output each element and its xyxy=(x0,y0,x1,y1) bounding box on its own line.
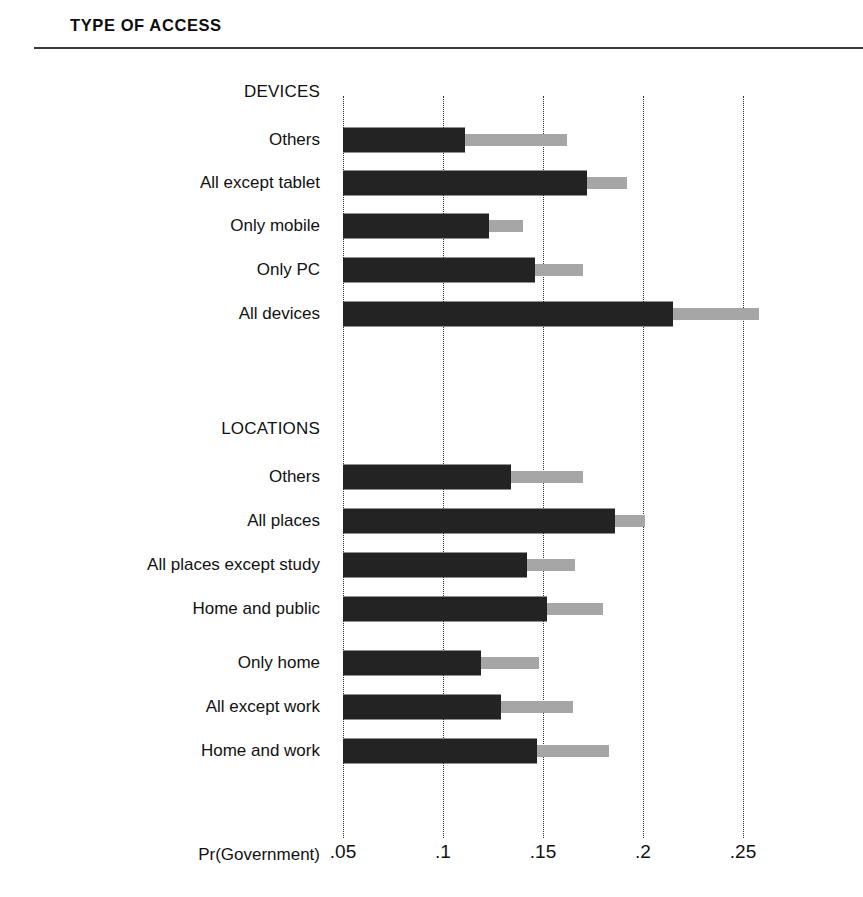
category-label-devices-all-devices: All devices xyxy=(0,304,320,324)
locations-section-label: LOCATIONS xyxy=(0,419,320,439)
category-label-devices-others: Others xyxy=(0,130,320,150)
category-label-devices-all-except-tablet: All except tablet xyxy=(0,173,320,193)
x-axis-title: Pr(Government) xyxy=(0,845,320,865)
category-label-locations-all-places: All places xyxy=(0,511,320,531)
x-tick-label-p15: .15 xyxy=(530,841,556,863)
x-tick-label-p05: .05 xyxy=(330,841,356,863)
value-bar-locations-home-and-public xyxy=(343,597,547,622)
x-tick-label-p1: .1 xyxy=(435,841,451,863)
category-label-locations-only-home: Only home xyxy=(0,653,320,673)
value-bar-locations-only-home xyxy=(343,651,481,676)
category-label-locations-home-and-work: Home and work xyxy=(0,741,320,761)
value-bar-devices-all-except-tablet xyxy=(343,171,587,196)
category-label-devices-only-mobile: Only mobile xyxy=(0,216,320,236)
value-bar-devices-all-devices xyxy=(343,302,673,327)
value-bar-locations-others xyxy=(343,465,511,490)
devices-section-label: DEVICES xyxy=(0,82,320,102)
value-bar-locations-all-except-work xyxy=(343,695,501,720)
category-label-locations-all-except-work: All except work xyxy=(0,697,320,717)
chart-plot-area: DEVICESLOCATIONSOthersAll except tabletO… xyxy=(0,0,863,897)
value-bar-devices-only-mobile xyxy=(343,214,489,239)
value-bar-devices-others xyxy=(343,128,465,153)
gridline-p2 xyxy=(643,96,644,838)
category-label-locations-home-and-public: Home and public xyxy=(0,599,320,619)
category-label-devices-only-pc: Only PC xyxy=(0,260,320,280)
value-bar-locations-all-places xyxy=(343,509,615,534)
gridline-p15 xyxy=(543,96,544,838)
x-tick-label-p25: .25 xyxy=(730,841,756,863)
x-tick-label-p2: .2 xyxy=(635,841,651,863)
category-label-locations-all-places-except-study: All places except study xyxy=(0,555,320,575)
figure-panel: TYPE OF ACCESS DEVICESLOCATIONSOthersAll… xyxy=(0,0,863,897)
value-bar-devices-only-pc xyxy=(343,258,535,283)
category-label-locations-others: Others xyxy=(0,467,320,487)
gridline-p25 xyxy=(743,96,744,838)
value-bar-locations-all-places-except-study xyxy=(343,553,527,578)
value-bar-locations-home-and-work xyxy=(343,739,537,764)
